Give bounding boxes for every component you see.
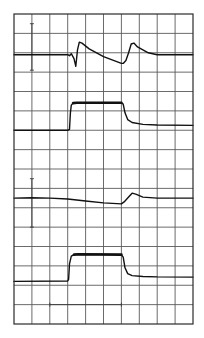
oscilloscope-graticule xyxy=(0,0,204,338)
